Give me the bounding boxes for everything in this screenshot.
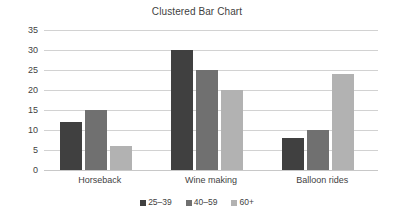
y-tick-label-10: 10 [4, 126, 38, 135]
y-tick-label-25: 25 [4, 66, 38, 75]
legend-swatch-icon [140, 200, 146, 206]
plot-area [44, 30, 378, 170]
chart-legend: 25–3940–5960+ [0, 198, 394, 207]
clustered-bar-chart: Clustered Bar Chart 05101520253035 Horse… [0, 0, 394, 218]
bar-cluster [282, 30, 354, 170]
bar [221, 90, 243, 170]
bar-cluster [171, 30, 243, 170]
x-tick-label: Balloon rides [267, 174, 378, 186]
bar [196, 70, 218, 170]
legend-swatch-icon [186, 200, 192, 206]
chart-title: Clustered Bar Chart [0, 6, 394, 17]
y-axis: 05101520253035 [0, 30, 38, 170]
y-tick-label-0: 0 [4, 166, 38, 175]
legend-label: 25–39 [148, 198, 172, 207]
y-tick-label-5: 5 [4, 146, 38, 155]
x-tick-label: Horseback [44, 174, 155, 186]
legend-item[interactable]: 25–39 [140, 198, 172, 207]
x-axis-category-labels: HorsebackWine makingBalloon rides [44, 174, 378, 188]
legend-item[interactable]: 60+ [231, 198, 253, 207]
bar [85, 110, 107, 170]
legend-swatch-icon [231, 200, 237, 206]
bar-cluster [60, 30, 132, 170]
x-tick-label: Wine making [155, 174, 266, 186]
y-tick-label-20: 20 [4, 86, 38, 95]
bar [110, 146, 132, 170]
bar [171, 50, 193, 170]
y-tick-label-15: 15 [4, 106, 38, 115]
bar [332, 74, 354, 170]
bar [60, 122, 82, 170]
legend-label: 60+ [239, 198, 253, 207]
bar [307, 130, 329, 170]
legend-item[interactable]: 40–59 [186, 198, 218, 207]
bar [282, 138, 304, 170]
y-tick-label-35: 35 [4, 26, 38, 35]
y-tick-label-30: 30 [4, 46, 38, 55]
legend-label: 40–59 [194, 198, 218, 207]
